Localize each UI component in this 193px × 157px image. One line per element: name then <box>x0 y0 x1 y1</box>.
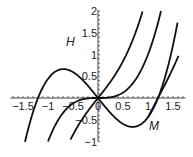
y-tick-label: −1 <box>84 136 97 148</box>
x-tick-label: 1 <box>145 100 151 112</box>
chart: −1.5−1−0.500.511.5−1−0.50.511.52 H M <box>0 0 193 157</box>
y-tick-label: 1.5 <box>82 27 97 39</box>
x-axis-label: M <box>149 119 159 133</box>
x-tick-label: −1 <box>42 100 55 112</box>
axes: −1.5−1−0.500.511.5−1−0.50.511.52 <box>11 5 186 148</box>
x-tick-label: 1.5 <box>165 100 180 112</box>
y-tick-label: 2 <box>91 5 97 17</box>
y-axis-label: H <box>66 35 75 49</box>
x-tick-label: 0.5 <box>115 100 130 112</box>
y-tick-label: 1 <box>91 49 97 61</box>
x-tick-label: −1.5 <box>12 100 34 112</box>
